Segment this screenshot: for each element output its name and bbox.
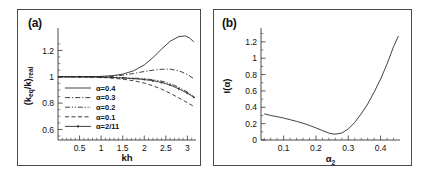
legend-marker	[77, 125, 79, 127]
figure-container: (a) 0.511.522.530.60.811.2kh(keq/k)realα…	[0, 0, 432, 178]
panel-a-marker	[89, 76, 91, 78]
panel-b-ytick: 0.2	[245, 119, 257, 129]
panel-b-xtick: 0.3	[342, 143, 354, 153]
legend-label: α=0.4	[96, 84, 116, 93]
panel-b-ytick: 0.4	[245, 102, 257, 112]
panel-a-xtick: 2	[142, 143, 147, 153]
panel-b-ytick: 0.8	[245, 70, 257, 80]
panel-a-ytick: 1	[49, 72, 54, 82]
legend-label: α=2/11	[96, 122, 119, 131]
legend-label: α=0.3	[96, 93, 115, 102]
panel-b-ytick: 0	[252, 135, 257, 145]
panel-a-xtick: 3	[185, 143, 190, 153]
panel-b-xaxis-title: α2	[326, 153, 336, 166]
panel-b-ytick: 1	[252, 53, 257, 63]
panel-b-curve	[264, 36, 398, 134]
legend-label: α=0.2	[96, 103, 115, 112]
panel-a: (a) 0.511.522.530.60.811.2kh(keq/k)realα…	[17, 9, 201, 166]
panel-a-marker	[152, 80, 154, 82]
panel-a-marker	[111, 76, 113, 78]
panel-a-xtick: 1.5	[117, 143, 129, 153]
panel-a-plot: 0.511.522.530.60.811.2kh(keq/k)realα=0.4…	[18, 10, 202, 167]
panel-a-xaxis-title: kh	[121, 152, 132, 163]
panel-b-xtick: 0.4	[375, 143, 387, 153]
panel-b: (b) 0.10.20.30.400.20.40.60.811.2α2I(α)	[213, 9, 412, 166]
panel-a-marker	[169, 84, 171, 86]
panel-a-marker	[133, 78, 135, 80]
panel-a-ytick: 0.6	[42, 125, 54, 135]
panel-b-xtick: 0.1	[278, 143, 290, 153]
panel-a-ytick: 1.2	[42, 46, 54, 56]
panel-a-marker	[193, 96, 195, 98]
panel-a-curve	[58, 36, 194, 77]
panel-a-marker	[143, 79, 145, 81]
panel-a-yaxis-title: (keq/k)real	[22, 66, 35, 105]
panel-a-marker	[186, 92, 188, 94]
legend-label: α=0.1	[96, 113, 115, 122]
panel-a-marker	[178, 88, 180, 90]
panel-a-ytick: 0.8	[42, 98, 54, 108]
panel-b-xtick: 0.2	[310, 143, 322, 153]
panel-b-ytick: 0.6	[245, 86, 257, 96]
panel-a-curve	[58, 77, 194, 107]
panel-a-marker	[79, 76, 81, 78]
panel-b-yaxis-title: I(α)	[221, 79, 232, 94]
panel-a-marker	[161, 81, 163, 83]
panel-a-xtick: 2.5	[160, 143, 172, 153]
panel-a-xtick: 1	[99, 143, 104, 153]
panel-a-xtick: 0.5	[74, 143, 86, 153]
panel-a-marker	[100, 76, 102, 78]
panel-a-marker	[122, 77, 124, 79]
panel-b-plot: 0.10.20.30.400.20.40.60.811.2α2I(α)	[214, 10, 413, 167]
panel-b-ytick: 1.2	[245, 37, 257, 47]
